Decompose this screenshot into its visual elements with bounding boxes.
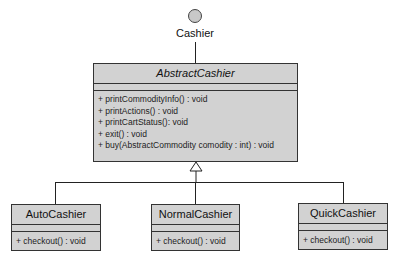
operations-section: + checkout() : void [12,232,100,251]
attributes-section [152,225,239,232]
operations-section: + printCommodityInfo() : void + printAct… [94,91,297,155]
operations-section: + checkout() : void [299,231,387,250]
attributes-section [94,84,297,91]
class-normal-cashier: NormalCashier + checkout() : void [151,204,240,251]
attributes-section [12,225,100,232]
interface-connector [195,42,196,64]
class-title: QuickCashier [299,204,387,224]
operation: + buy(AbstractCommodity comodity : int) … [98,140,293,152]
operation: + checkout() : void [16,236,96,248]
operation: + checkout() : void [303,235,383,247]
operations-section: + checkout() : void [152,232,239,251]
interface-label: Cashier [165,27,225,39]
class-title: NormalCashier [152,205,239,225]
connector-auto [55,182,56,204]
connector-quick [343,182,344,203]
class-quick-cashier: QuickCashier + checkout() : void [298,203,388,250]
inheritance-bus [55,182,344,183]
operation: + printActions() : void [98,106,293,118]
operation: + printCommodityInfo() : void [98,94,293,106]
operation: + printCartStatus(): void [98,117,293,129]
attributes-section [299,224,387,231]
connector-normal [195,182,196,204]
class-abstract-cashier: AbstractCashier + printCommodityInfo() :… [93,63,298,162]
operation: + exit() : void [98,129,293,141]
class-auto-cashier: AutoCashier + checkout() : void [11,204,101,251]
class-title: AutoCashier [12,205,100,225]
interface-circle-icon [188,9,202,23]
operation: + checkout() : void [156,236,235,248]
class-title: AbstractCashier [94,64,297,84]
